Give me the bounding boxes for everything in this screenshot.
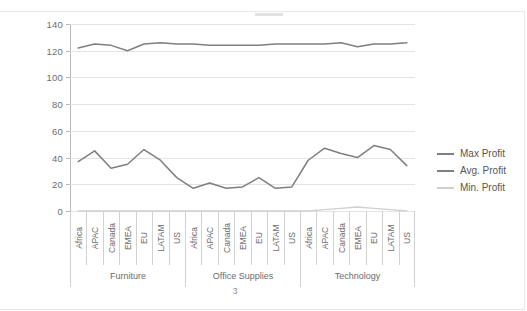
legend-label: Avg. Profit: [460, 165, 506, 176]
category-label: Canada: [337, 223, 347, 253]
category-label: EU: [254, 232, 264, 244]
y-axis-tick-label: 20: [52, 179, 63, 190]
category-tick: EU: [251, 211, 267, 265]
plot-area: 020406080100120140: [70, 24, 415, 211]
category-label: APAC: [320, 227, 330, 250]
category-label: EU: [369, 232, 379, 244]
category-label: LATAM: [156, 224, 166, 251]
y-axis-tick-label: 60: [52, 125, 63, 136]
y-axis-tick-label: 120: [47, 45, 63, 56]
category-label: EMEA: [238, 226, 248, 250]
legend-line-icon: [437, 187, 454, 189]
category-label: US: [172, 232, 182, 244]
group-label: Furniture: [71, 271, 185, 281]
category-tick: LATAM: [382, 211, 398, 265]
chart-legend: Max ProfitAvg. ProfitMin. Profit: [437, 145, 523, 196]
category-label: APAC: [90, 227, 100, 250]
chart-container: 020406080100120140 AfricaAPACCanadaEMEAE…: [30, 16, 430, 282]
legend-line-icon: [437, 170, 454, 172]
group-tick: Furniture: [70, 265, 185, 287]
legend-item[interactable]: Max Profit: [437, 145, 523, 162]
category-tick: APAC: [201, 211, 217, 265]
series-line: [78, 146, 407, 189]
group-axis: FurnitureOffice SuppliesTechnology: [70, 265, 415, 287]
category-label: Africa: [304, 227, 314, 249]
page-number: 3: [0, 286, 470, 296]
category-label: Canada: [107, 223, 117, 253]
category-tick: EMEA: [119, 211, 135, 265]
category-tick: Canada: [103, 211, 119, 265]
y-axis-tick-label: 40: [52, 152, 63, 163]
category-label: EMEA: [123, 226, 133, 250]
y-axis-tick-label: 100: [47, 72, 63, 83]
category-label: Africa: [189, 227, 199, 249]
category-label: LATAM: [386, 224, 396, 251]
category-tick: LATAM: [267, 211, 283, 265]
legend-label: Max Profit: [460, 148, 505, 159]
category-label: US: [402, 232, 412, 244]
chart-page: 020406080100120140 AfricaAPACCanadaEMEAE…: [0, 0, 527, 311]
legend-line-icon: [437, 153, 454, 155]
category-tick: LATAM: [152, 211, 168, 265]
legend-item[interactable]: Avg. Profit: [437, 162, 523, 179]
category-tick: EU: [136, 211, 152, 265]
category-tick: US: [284, 211, 300, 265]
y-axis-tick-label: 140: [47, 19, 63, 30]
group-tick: Office Supplies: [185, 265, 300, 287]
category-label: EMEA: [353, 226, 363, 250]
y-axis-tick-label: 0: [58, 206, 63, 217]
category-tick: US: [169, 211, 185, 265]
category-tick: EMEA: [234, 211, 250, 265]
group-label: Office Supplies: [186, 271, 300, 281]
legend-label: Min. Profit: [460, 182, 505, 193]
category-tick: EMEA: [349, 211, 365, 265]
legend-item[interactable]: Min. Profit: [437, 179, 523, 196]
category-label: Africa: [74, 227, 84, 249]
category-label: Canada: [222, 223, 232, 253]
category-tick: US: [399, 211, 415, 265]
category-tick: Africa: [185, 211, 201, 265]
group-label: Technology: [301, 271, 414, 281]
series-line: [78, 43, 407, 51]
category-label: LATAM: [271, 224, 281, 251]
category-tick: Canada: [333, 211, 349, 265]
y-axis-tick-label: 80: [52, 99, 63, 110]
category-tick: Africa: [300, 211, 316, 265]
category-label: US: [287, 232, 297, 244]
category-label: EU: [139, 232, 149, 244]
series-lines: [70, 24, 415, 211]
category-tick: EU: [366, 211, 382, 265]
category-tick: APAC: [316, 211, 332, 265]
category-tick: Canada: [218, 211, 234, 265]
category-axis: AfricaAPACCanadaEMEAEULATAMUSAfricaAPACC…: [70, 211, 415, 271]
group-tick: Technology: [300, 265, 415, 287]
category-tick: Africa: [70, 211, 86, 265]
category-tick: APAC: [86, 211, 102, 265]
category-label: APAC: [205, 227, 215, 250]
